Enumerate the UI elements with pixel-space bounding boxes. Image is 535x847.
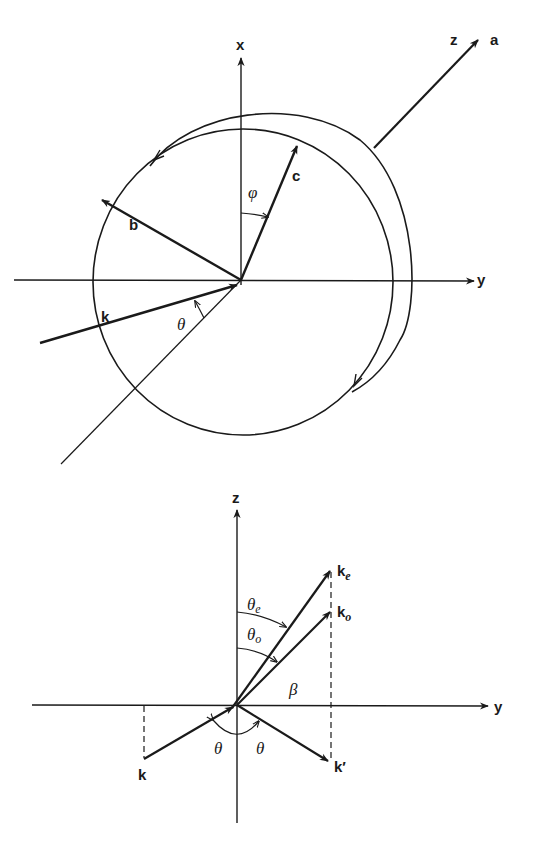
label-z-axis: z — [450, 31, 458, 48]
label-theta-right: θ — [256, 739, 264, 758]
label-k-o: ko — [337, 603, 351, 624]
theta-e-arc — [237, 612, 286, 627]
label-vector-b: b — [129, 216, 138, 233]
label-beta: β — [288, 680, 298, 699]
vector-b — [102, 200, 241, 280]
label-theta-left: θ — [214, 739, 222, 758]
label-x-axis: x — [236, 36, 245, 53]
bottom-labels: z y ke ko k k′ θe θo β θ θ — [138, 489, 503, 783]
y-axis — [14, 280, 474, 281]
inner-circle — [93, 129, 393, 435]
label-theta: θ — [177, 315, 185, 334]
phi-arc — [241, 213, 268, 217]
label-y-axis-bottom: y — [494, 698, 503, 715]
label-y-axis: y — [477, 271, 486, 288]
vector-c — [241, 146, 297, 280]
vector-k-reflected — [237, 705, 328, 761]
top-labels: x y z a b c k φ θ — [101, 31, 499, 334]
outer-arc — [150, 114, 412, 392]
label-theta-e: θe — [247, 595, 261, 616]
label-k-e: ke — [337, 562, 351, 583]
label-k-incident: k — [138, 766, 147, 783]
theta-double-arc — [213, 720, 259, 734]
label-z-axis-bottom: z — [232, 489, 240, 506]
vector-a-z — [374, 40, 478, 148]
diagonal-line — [61, 280, 241, 464]
theta-arc — [195, 301, 204, 318]
label-vector-a: a — [490, 31, 499, 48]
crystal-optics-figure: x y z a b c k φ θ z y ke k — [0, 0, 535, 847]
bottom-diagram — [32, 510, 488, 823]
label-theta-o: θo — [247, 625, 261, 646]
label-phi: φ — [248, 183, 257, 202]
label-vector-k: k — [101, 308, 110, 325]
y-axis-bottom — [32, 705, 488, 706]
label-k-reflected: k′ — [334, 758, 346, 775]
label-vector-c: c — [292, 167, 300, 184]
top-diagram — [14, 40, 478, 464]
